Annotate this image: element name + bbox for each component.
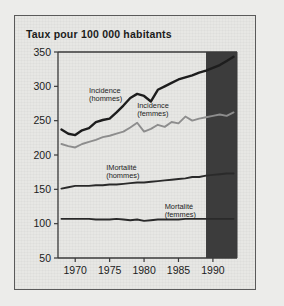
series-annotation: Incidence(femmes): [137, 101, 169, 118]
series-annotation: IMortalité(hommes): [106, 163, 139, 180]
y-tick-label: 200: [33, 149, 51, 161]
y-tick-label: 50: [39, 252, 51, 264]
line-chart: 5010015020025030035019701975198019851990…: [15, 16, 257, 291]
series-annotation: Incidence(hommes): [89, 86, 122, 103]
series-annotation: Mortalité(femmes): [165, 202, 196, 219]
shaded-projection-region: [206, 52, 237, 258]
series-annotation-line2: (femmes): [165, 210, 196, 219]
y-tick-label: 350: [33, 46, 51, 58]
series-annotation-line2: (hommes): [89, 94, 122, 103]
x-tick-label: 1990: [201, 264, 225, 276]
y-tick-label: 150: [33, 183, 51, 195]
x-tick-label: 1975: [98, 264, 122, 276]
x-tick-label: 1985: [167, 264, 191, 276]
x-tick-label: 1980: [132, 264, 156, 276]
series-annotation-line2: (femmes): [137, 109, 168, 118]
series-annotation-line2: (hommes): [106, 171, 139, 180]
chart-figure: Taux pour 100 000 habitants 501001502002…: [14, 15, 256, 290]
x-tick-label: 1970: [64, 264, 88, 276]
y-tick-label: 250: [33, 114, 51, 126]
y-tick-label: 100: [33, 217, 51, 229]
y-tick-label: 300: [33, 80, 51, 92]
